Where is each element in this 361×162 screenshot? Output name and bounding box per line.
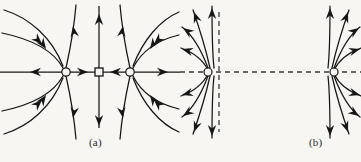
arrowhead-group-right-lower-b — [326, 88, 361, 136]
critical-point-left-node-b — [204, 68, 212, 76]
flowline-group-left-upper-a — [2, 5, 76, 68]
arrowhead-group-right-upper-b — [326, 8, 361, 56]
critical-point-right-node-b — [330, 68, 338, 76]
flowline-group-right-lower-a — [120, 76, 179, 139]
flowline-group-right-upper-b — [328, 6, 361, 70]
figure-root: (a) (b) — [0, 0, 361, 162]
arrowhead-group-left-lower-b — [181, 88, 217, 136]
flowline-group-left-lower-b — [181, 74, 214, 138]
critical-point-right-node-a — [126, 68, 134, 76]
panel-caption-b: (b) — [309, 136, 322, 148]
critical-point-saddle-a — [95, 68, 103, 76]
phase-portrait-panel-b — [180, 0, 361, 162]
panel-caption-a: (a) — [89, 136, 102, 148]
flowline-group-left-lower-a — [2, 76, 76, 139]
flowline-group-right-lower-b — [328, 74, 361, 138]
critical-point-left-node-a — [62, 68, 70, 76]
arrowhead-group-left-upper-b — [181, 8, 217, 56]
flowline-group-left-upper-b — [181, 6, 214, 70]
flowline-group-right-upper-a — [120, 5, 179, 68]
